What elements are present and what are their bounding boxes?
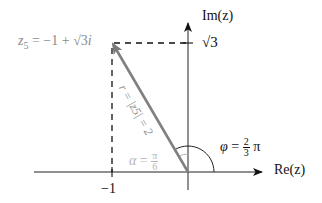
im-axis-label: Im(z)	[202, 8, 233, 24]
point-z5-label: z5 = −1 + √3i	[18, 33, 92, 51]
sqrt3-tick-label: √3	[202, 34, 218, 51]
alpha-angle-label: α = π6	[129, 151, 158, 172]
re-axis-label: Re(z)	[274, 162, 305, 178]
phi-fraction: 23	[243, 137, 250, 158]
alpha-fraction: π6	[151, 151, 158, 172]
minus-one-tick-label: −1	[101, 181, 116, 197]
phi-angle-label: φ = 23 π	[220, 137, 260, 158]
alpha-angle-arc	[179, 154, 188, 156]
